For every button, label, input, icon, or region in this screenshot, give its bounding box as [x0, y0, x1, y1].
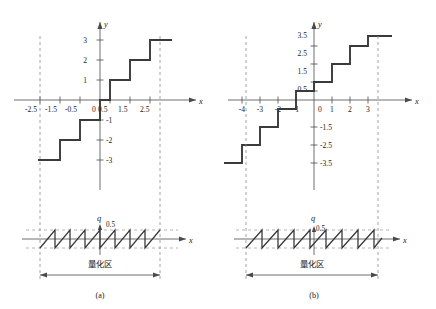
- panel-a-error-x-axis-arrow: [179, 236, 186, 241]
- panel-a-staircase-plot: x y -2.5 -1.5 -0.5 0 0.5 1.5 2.5: [14, 20, 203, 282]
- panel-b-yticklabel-3: 0.5: [298, 85, 308, 94]
- panel-b-error-x-axis-arrow: [393, 236, 400, 241]
- panel-a-xticklabel-6: 2.5: [140, 105, 150, 114]
- panel-b-xticklabel-6: 2: [348, 105, 352, 114]
- panel-b-error-x-axis-label: x: [402, 236, 407, 245]
- panel-b-xticklabel-0: -4: [239, 105, 246, 114]
- panel-a-y-axis-label: y: [103, 20, 108, 29]
- panel-b-x-axis-label: x: [414, 97, 419, 106]
- panel-b-staircase-curve: [224, 36, 392, 163]
- panel-a-error-x-axis-label: x: [188, 236, 193, 245]
- panel-a-yticklabel-3: -1: [106, 116, 113, 125]
- panel-b: x y -4 -3 -2 -1 0 1 2 3: [224, 20, 419, 300]
- panel-b-yticklabel-6: -3.5: [320, 159, 332, 168]
- panel-a-yticklabel-5: -3: [106, 156, 113, 165]
- panel-a-yticklabel-4: -2: [106, 136, 113, 145]
- panel-a-range-arrow-left: [40, 273, 47, 278]
- panel-b-xticklabel-4: 0: [318, 105, 322, 114]
- panel-b-quantizer-label: 量化区: [300, 259, 324, 269]
- panel-a-quantizer-label: 量化区: [88, 259, 112, 269]
- panel-a-yticklabel-1: 2: [83, 56, 87, 65]
- panel-a-xticklabel-5: 1.5: [118, 105, 128, 114]
- panel-a-xticklabel-0: -2.5: [25, 105, 37, 114]
- panel-b-yticklabel-0: 3.5: [298, 31, 308, 40]
- panel-b-xticklabel-7: 3: [366, 105, 370, 114]
- panel-a-x-axis-label: x: [198, 97, 203, 106]
- panel-a-yticklabel-0: 3: [83, 36, 87, 45]
- panel-b-y-axis-label: y: [317, 20, 322, 29]
- panel-a-range-arrow-right: [153, 273, 160, 278]
- panel-a-xticklabel-1: -1.5: [45, 105, 57, 114]
- panel-a-error-q-label: q: [97, 214, 101, 223]
- panel-b-error-plot: x q 0.5: [234, 214, 407, 255]
- panel-b-range-arrow-right: [371, 273, 378, 278]
- panel-a-caption: (a): [95, 291, 104, 300]
- panel-a-yticklabel-2: 1: [83, 76, 87, 85]
- panel-a-error-plot: x q 0.5: [22, 214, 193, 255]
- panel-b-range-arrow-left: [246, 273, 253, 278]
- panel-b-y-axis-arrow: [311, 22, 316, 29]
- panel-a-xticklabel-2: -0.5: [65, 105, 77, 114]
- panel-a-x-axis-arrow: [189, 97, 196, 102]
- panel-a-error-peak-label: 0.5: [106, 221, 115, 229]
- panel-a-range-annotation: 量化区: [40, 259, 160, 277]
- panel-b-range-annotation: 量化区: [246, 259, 378, 277]
- panel-b-yticklabel-4: -1.5: [320, 123, 332, 132]
- panel-b-yticklabel-5: -2.5: [320, 141, 332, 150]
- panel-b-x-axis-arrow: [405, 97, 412, 102]
- panel-b-yticklabel-2: 1.5: [298, 67, 308, 76]
- panel-a-y-axis-arrow: [97, 22, 102, 29]
- panel-b-error-q-label: q: [311, 214, 315, 223]
- panel-b-staircase-plot: x y -4 -3 -2 -1 0 1 2 3: [224, 20, 419, 282]
- quantizer-figure: x y -2.5 -1.5 -0.5 0 0.5 1.5 2.5: [0, 0, 436, 309]
- panel-a-xticklabel-3: 0: [92, 105, 96, 114]
- panel-b-xticklabel-1: -3: [257, 105, 264, 114]
- panel-b-caption: (b): [309, 291, 319, 300]
- panel-b-xticklabel-5: 1: [330, 105, 334, 114]
- panel-a: x y -2.5 -1.5 -0.5 0 0.5 1.5 2.5: [14, 20, 203, 300]
- panel-b-yticklabel-1: 2.5: [298, 49, 308, 58]
